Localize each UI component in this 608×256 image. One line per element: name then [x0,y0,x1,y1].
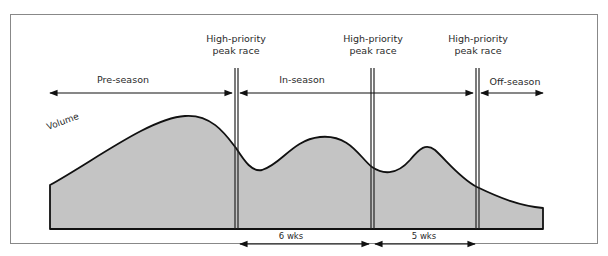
race-2-label-line2: peak race [349,45,396,56]
off-season-label: Off-season [490,76,541,87]
pre-season-label: Pre-season [97,74,149,85]
volume-label: Volume [45,111,80,132]
five-weeks-label: 5 wks [412,231,437,241]
volume-area [50,116,543,229]
race-1-label-line2: peak race [212,45,259,56]
race-3-label-line1: High-priority [448,33,508,44]
periodization-diagram: High-priority peak race High-priority pe… [0,0,608,256]
race-3-label-line2: peak race [454,45,501,56]
six-weeks-label: 6 wks [279,231,304,241]
in-season-label: In-season [279,74,325,85]
race-2-label-line1: High-priority [343,33,403,44]
race-1-label-line1: High-priority [206,33,266,44]
